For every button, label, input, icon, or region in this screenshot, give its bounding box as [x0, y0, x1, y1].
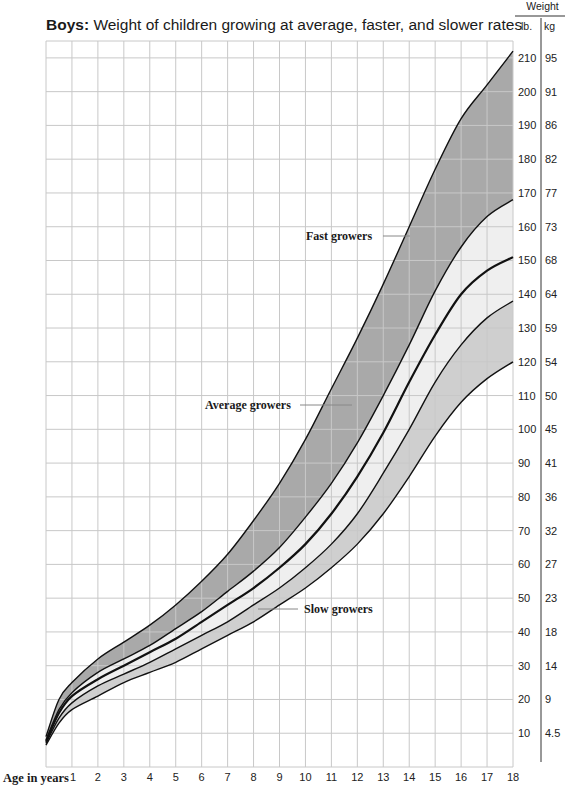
y-tick-kg-label: 86 — [545, 119, 557, 131]
y-tick-kg-label: 59 — [545, 322, 557, 334]
y-tick-kg-label: 4.5 — [545, 727, 560, 739]
y-tick-lb-label: 10 — [518, 727, 530, 739]
x-tick-label: 12 — [351, 771, 363, 783]
y-tick-lb-label: 180 — [518, 153, 536, 165]
x-tick-label: 1 — [70, 771, 76, 783]
y-tick-lb-label: 150 — [518, 254, 536, 266]
x-axis-title: Age in years — [3, 771, 69, 786]
y-tick-kg-label: 41 — [545, 457, 557, 469]
y-tick-lb-label: 80 — [518, 491, 530, 503]
y-tick-kg-label: 95 — [545, 52, 557, 64]
y-tick-kg-label: 32 — [545, 525, 557, 537]
annotation-slow-growers: Slow growers — [304, 602, 373, 617]
y-tick-lb-label: 50 — [518, 592, 530, 604]
x-tick-label: 13 — [377, 771, 389, 783]
growth-chart-plot — [0, 0, 565, 789]
x-tick-label: 2 — [95, 771, 101, 783]
y-tick-lb-label: 110 — [518, 390, 536, 402]
y-tick-kg-label: 54 — [545, 356, 557, 368]
y-tick-kg-label: 18 — [545, 626, 557, 638]
y-tick-lb-label: 20 — [518, 693, 530, 705]
x-tick-label: 5 — [173, 771, 179, 783]
y-tick-kg-label: 50 — [545, 390, 557, 402]
y-tick-kg-label: 64 — [545, 288, 557, 300]
y-tick-kg-label: 91 — [545, 86, 557, 98]
annotation-fast-growers: Fast growers — [306, 229, 372, 244]
x-tick-label: 18 — [507, 771, 519, 783]
x-tick-label: 9 — [276, 771, 282, 783]
x-tick-label: 16 — [455, 771, 467, 783]
y-tick-lb-label: 100 — [518, 423, 536, 435]
x-tick-label: 17 — [481, 771, 493, 783]
y-tick-lb-label: 120 — [518, 356, 536, 368]
x-tick-label: 3 — [121, 771, 127, 783]
y-tick-lb-label: 60 — [518, 558, 530, 570]
y-tick-lb-label: 90 — [518, 457, 530, 469]
y-tick-kg-label: 73 — [545, 221, 557, 233]
y-tick-lb-label: 210 — [518, 52, 536, 64]
y-tick-lb-label: 70 — [518, 525, 530, 537]
y-tick-kg-label: 27 — [545, 558, 557, 570]
y-tick-kg-label: 45 — [545, 423, 557, 435]
y-tick-kg-label: 68 — [545, 254, 557, 266]
x-tick-label: 4 — [147, 771, 153, 783]
y-tick-kg-label: 23 — [545, 592, 557, 604]
y-tick-lb-label: 140 — [518, 288, 536, 300]
y-tick-kg-label: 77 — [545, 187, 557, 199]
y-tick-kg-label: 9 — [545, 693, 551, 705]
y-tick-lb-label: 30 — [518, 660, 530, 672]
annotation-average-growers: Average growers — [205, 398, 291, 413]
x-tick-label: 10 — [299, 771, 311, 783]
x-tick-label: 8 — [250, 771, 256, 783]
x-tick-label: 15 — [429, 771, 441, 783]
x-tick-label: 11 — [326, 771, 337, 783]
x-tick-label: 6 — [199, 771, 205, 783]
x-tick-label: 14 — [403, 771, 415, 783]
y-tick-lb-label: 200 — [518, 86, 536, 98]
y-tick-lb-label: 40 — [518, 626, 530, 638]
y-tick-lb-label: 130 — [518, 322, 536, 334]
x-tick-label: 7 — [225, 771, 231, 783]
y-tick-lb-label: 190 — [518, 119, 536, 131]
y-tick-kg-label: 14 — [545, 660, 557, 672]
y-tick-lb-label: 160 — [518, 221, 536, 233]
y-tick-lb-label: 170 — [518, 187, 536, 199]
y-tick-kg-label: 36 — [545, 491, 557, 503]
y-tick-kg-label: 82 — [545, 153, 557, 165]
